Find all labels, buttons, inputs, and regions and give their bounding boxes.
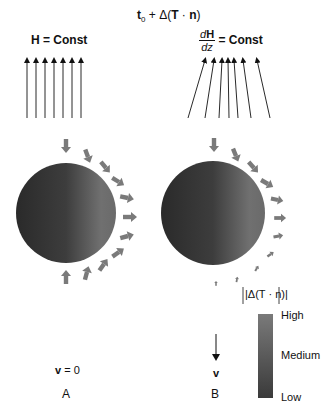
- panel-a-field-lines: [27, 60, 81, 118]
- panel-b-field-lines: [188, 60, 270, 118]
- panel-b-letter: B: [211, 387, 219, 401]
- v-equals-zero: = 0: [61, 364, 80, 376]
- abs-delta-label: |Δ(T · n)|: [245, 288, 288, 300]
- panel-b-velocity-label: v: [213, 367, 219, 379]
- colorbar-label-low: Low: [281, 391, 301, 403]
- panel-a-velocity-label: v = 0: [55, 364, 80, 376]
- colorbar-label-high: High: [281, 309, 304, 321]
- colorbar-label-medium: Medium: [281, 349, 320, 361]
- panel-a-letter: A: [62, 387, 70, 401]
- sphere-b: [161, 161, 265, 265]
- sphere-a: [16, 163, 116, 263]
- velocity-arrow-head: [212, 354, 220, 361]
- colorbar: [258, 314, 273, 398]
